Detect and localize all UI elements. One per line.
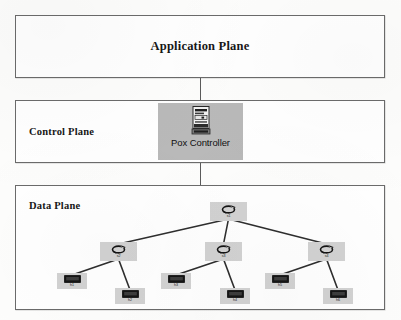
switch-icon bbox=[216, 245, 231, 254]
network-topology: s1s2s3s4h1h2h3h4h5h6 bbox=[15, 185, 385, 310]
topology-link bbox=[224, 259, 236, 290]
topology-link bbox=[224, 219, 229, 244]
host-node-h2[interactable]: h2 bbox=[115, 288, 145, 304]
pox-controller-label: Pox Controller bbox=[171, 137, 230, 148]
host-node-h6[interactable]: h6 bbox=[323, 288, 353, 304]
switch-node-s3[interactable]: s3 bbox=[205, 242, 242, 261]
control-plane-title: Control Plane bbox=[29, 126, 94, 137]
topology-link bbox=[229, 219, 327, 244]
node-label: h6 bbox=[336, 298, 340, 302]
connector-application-to-control bbox=[200, 78, 201, 100]
switch-node-s2[interactable]: s2 bbox=[100, 242, 137, 261]
node-label: s1 bbox=[227, 214, 231, 218]
application-plane-box: Application Plane bbox=[15, 15, 385, 78]
host-icon bbox=[227, 290, 244, 298]
host-node-h3[interactable]: h3 bbox=[161, 273, 191, 289]
node-label: h5 bbox=[278, 283, 282, 287]
host-icon bbox=[168, 275, 185, 283]
topology-link bbox=[119, 259, 131, 290]
node-label: s4 bbox=[325, 254, 329, 258]
switch-icon bbox=[111, 245, 126, 254]
node-label: h2 bbox=[128, 298, 132, 302]
host-icon bbox=[122, 290, 139, 298]
switch-node-s4[interactable]: s4 bbox=[308, 242, 345, 261]
topology-link bbox=[119, 219, 229, 244]
switch-icon bbox=[319, 245, 334, 254]
node-label: s3 bbox=[222, 254, 226, 258]
figure-canvas: Application Plane Control Plane Pox Cont… bbox=[0, 0, 401, 320]
switch-node-s1[interactable]: s1 bbox=[210, 202, 247, 221]
node-label: h1 bbox=[70, 283, 74, 287]
node-label: s2 bbox=[117, 254, 121, 258]
pox-controller-node[interactable]: Pox Controller bbox=[158, 103, 243, 160]
application-plane-title: Application Plane bbox=[16, 39, 384, 54]
topology-link bbox=[327, 259, 339, 290]
host-icon bbox=[272, 275, 289, 283]
connector-control-to-data bbox=[200, 163, 201, 185]
switch-icon bbox=[221, 205, 236, 214]
host-node-h5[interactable]: h5 bbox=[265, 273, 295, 289]
node-label: h3 bbox=[174, 283, 178, 287]
node-label: h4 bbox=[233, 298, 237, 302]
host-icon bbox=[64, 275, 81, 283]
host-icon bbox=[330, 290, 347, 298]
host-node-h4[interactable]: h4 bbox=[220, 288, 250, 304]
host-node-h1[interactable]: h1 bbox=[57, 273, 87, 289]
pc-tower-icon bbox=[190, 106, 212, 136]
